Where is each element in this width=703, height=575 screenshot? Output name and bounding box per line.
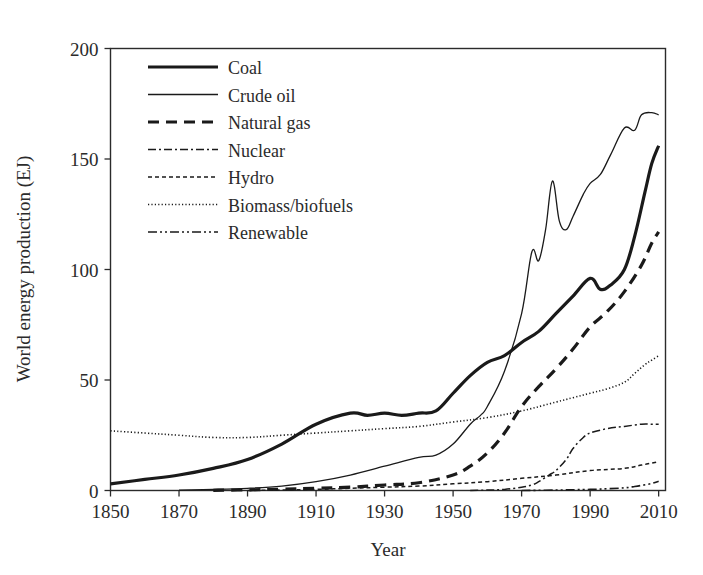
x-axis-title: Year <box>370 539 406 560</box>
legend-label-renewable: Renewable <box>228 223 308 243</box>
x-tick-label-1910: 1910 <box>297 501 335 522</box>
legend-label-hydro: Hydro <box>228 168 274 188</box>
series-line-coal <box>111 146 659 484</box>
legend-label-biomass-biofuels: Biomass/biofuels <box>228 196 353 216</box>
y-tick-label-200: 200 <box>70 39 99 60</box>
x-tick-label-1950: 1950 <box>434 501 472 522</box>
data-series-group <box>111 112 659 490</box>
y-tick-label-0: 0 <box>89 481 99 502</box>
series-line-nuclear <box>470 424 658 490</box>
x-axis-ticks <box>111 491 659 497</box>
legend-label-coal: Coal <box>228 58 262 78</box>
legend-label-natural-gas: Natural gas <box>228 113 310 133</box>
x-tick-label-1850: 1850 <box>92 501 130 522</box>
y-axis-tick-labels: 050100150200 <box>70 39 99 502</box>
series-line-natural-gas <box>213 232 658 490</box>
series-line-renewable <box>522 481 659 490</box>
x-tick-label-1930: 1930 <box>366 501 404 522</box>
series-line-biomass-biofuels <box>111 356 659 438</box>
x-tick-label-1990: 1990 <box>571 501 609 522</box>
y-tick-label-50: 50 <box>80 370 99 391</box>
plot-frame <box>111 49 666 491</box>
chart-legend: CoalCrude oilNatural gasNuclearHydroBiom… <box>148 58 353 243</box>
y-axis-ticks <box>105 49 111 491</box>
x-tick-label-1870: 1870 <box>160 501 198 522</box>
y-axis-title: World energy production (EJ) <box>13 156 35 383</box>
legend-label-nuclear: Nuclear <box>228 141 285 161</box>
chart-canvas: 185018701890191019301950197019902010 050… <box>0 0 703 575</box>
y-tick-label-100: 100 <box>70 260 99 281</box>
y-tick-label-150: 150 <box>70 149 99 170</box>
x-tick-label-1890: 1890 <box>229 501 267 522</box>
energy-production-chart-figure: 185018701890191019301950197019902010 050… <box>0 0 703 575</box>
x-axis-tick-labels: 185018701890191019301950197019902010 <box>92 501 678 522</box>
x-tick-label-1970: 1970 <box>503 501 541 522</box>
x-tick-label-2010: 2010 <box>640 501 678 522</box>
plot-area-border <box>111 49 666 491</box>
legend-label-crude-oil: Crude oil <box>228 86 296 106</box>
